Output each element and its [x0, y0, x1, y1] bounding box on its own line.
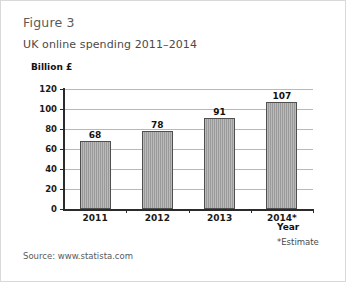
y-axis-tick-label: 60	[45, 144, 57, 154]
bar-value-label: 68	[89, 130, 102, 140]
y-axis-tick-label: 0	[51, 204, 57, 214]
y-axis-tick-label: 120	[39, 84, 57, 94]
figure-label: Figure 3	[23, 15, 75, 30]
y-axis-tick-label: 40	[45, 164, 57, 174]
bar-value-label: 78	[151, 120, 164, 130]
y-axis-line	[63, 88, 65, 210]
bar: 107	[266, 102, 297, 209]
bar: 68	[80, 141, 111, 209]
x-axis-category-label: 2013	[189, 213, 251, 223]
y-axis-tick-label: 80	[45, 124, 57, 134]
figure-card: Figure 3 UK online spending 2011–2014 Bi…	[0, 0, 346, 282]
bar: 78	[142, 131, 173, 209]
bar-value-label: 91	[213, 107, 226, 117]
y-axis-tick-label: 20	[45, 184, 57, 194]
page-title: UK online spending 2011–2014	[23, 38, 197, 51]
x-axis-category-label: 2011	[64, 213, 126, 223]
x-axis-title: Year	[277, 222, 299, 232]
y-axis-title: Billion £	[31, 62, 72, 72]
estimate-footnote: *Estimate	[277, 237, 319, 247]
bar-chart-plot-area: 020406080100120 687891107 20112012201320…	[64, 89, 313, 209]
bar: 91	[204, 118, 235, 209]
x-axis-category-label: 2012	[126, 213, 188, 223]
y-axis-tick-label: 100	[39, 104, 57, 114]
bar-value-label: 107	[272, 91, 291, 101]
gridline	[64, 89, 313, 90]
source-note: Source: www.statista.com	[23, 251, 133, 261]
x-axis-tick	[313, 209, 314, 213]
